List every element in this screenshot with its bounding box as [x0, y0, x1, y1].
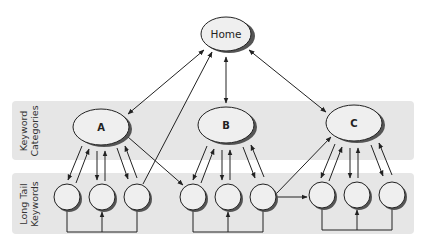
keyword-categories-label-line1: Keyword — [18, 111, 29, 152]
keyword-categories-label-line2: Categories — [29, 105, 40, 156]
long-tail-label-line1: Long Tail — [18, 183, 29, 224]
long-tail-nodes — [54, 182, 407, 212]
category-b-label: B — [222, 120, 230, 131]
home-label: Home — [210, 28, 241, 40]
home-node[interactable]: Home — [201, 17, 255, 53]
site-structure-diagram: Keyword Categories Long Tail Keywords — [0, 0, 429, 247]
category-a-label: A — [97, 122, 105, 133]
category-c-label: C — [350, 118, 357, 129]
long-tail-label-line2: Keywords — [29, 181, 40, 227]
